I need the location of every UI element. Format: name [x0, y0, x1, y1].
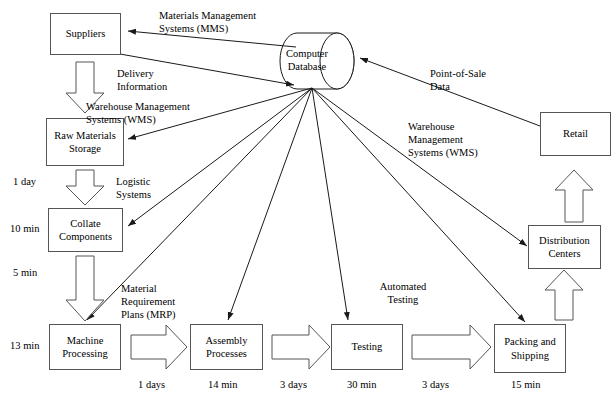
block-arrow-assembly-to-testing: [272, 325, 330, 369]
edge-assembly-processes: [228, 88, 312, 320]
block-arrow-distribution-to-retail: [555, 170, 593, 222]
time-label-machine: 13 min: [10, 340, 39, 353]
edge-wms-distribution-centers: [312, 88, 527, 246]
edge-label-automated-testing: Automated Testing: [366, 281, 440, 307]
block-arrow-raw-to-collate: [66, 170, 104, 205]
node-suppliers[interactable]: Suppliers: [50, 13, 121, 55]
node-distribution-centers[interactable]: Distribution Centers: [528, 225, 601, 269]
time-label-assembly-to-testing: 3 days: [280, 379, 307, 392]
node-machine-processing[interactable]: Machine Processing: [49, 324, 121, 370]
time-label-testing-to-packing: 3 days: [422, 379, 449, 392]
time-label-raw-to-collate: 1 day: [13, 176, 36, 189]
block-arrow-packing-to-distribution: [545, 270, 583, 320]
block-arrow-machine-to-assembly: [131, 325, 187, 369]
time-label-collate: 10 min: [10, 223, 39, 236]
block-arrow-collate-to-machine: [66, 256, 104, 321]
node-retail[interactable]: Retail: [540, 112, 611, 156]
time-label-packing: 15 min: [511, 379, 540, 392]
node-machine-processing-label: Machine Processing: [50, 334, 120, 360]
edge-label-wms-right: Warehouse Management Systems (WMS): [408, 121, 492, 159]
node-assembly-processes-label: Assembly Processes: [191, 334, 262, 360]
node-testing-label: Testing: [350, 340, 385, 353]
edge-label-point-of-sale: Point-of-Sale Data: [430, 68, 522, 94]
node-raw-materials-storage-label: Raw Materials Storage: [47, 129, 123, 155]
time-label-assembly: 14 min: [208, 379, 237, 392]
edge-label-logistic-systems: Logistic Systems: [116, 176, 186, 202]
edge-label-wms-left: Warehouse Management Systems (WMS): [86, 101, 222, 127]
node-collate-components[interactable]: Collate Components: [48, 208, 123, 252]
edge-label-delivery-information: Delivery Information: [117, 68, 207, 94]
time-label-testing: 30 min: [347, 379, 376, 392]
time-label-collate-to-machine: 5 min: [13, 267, 37, 280]
edge-label-mms: Materials Management Systems (MMS): [159, 10, 294, 36]
node-distribution-centers-label: Distribution Centers: [529, 234, 600, 260]
node-packing-and-shipping[interactable]: Packing and Shipping: [494, 324, 566, 373]
time-label-machine-to-assembly: 1 days: [138, 379, 165, 392]
node-collate-components-label: Collate Components: [49, 217, 122, 243]
edge-label-mrp: Material Requirement Plans (MRP): [121, 283, 211, 321]
diagram-canvas: Suppliers Raw Materials Storage Collate …: [0, 0, 616, 403]
edge-automated-testing: [312, 88, 348, 320]
node-suppliers-label: Suppliers: [64, 27, 108, 40]
node-computer-database-label: Computer Database: [283, 47, 331, 73]
node-packing-and-shipping-label: Packing and Shipping: [495, 335, 565, 361]
block-arrow-testing-to-packing: [412, 325, 491, 369]
node-testing[interactable]: Testing: [331, 324, 403, 370]
node-assembly-processes[interactable]: Assembly Processes: [190, 324, 263, 370]
node-retail-label: Retail: [561, 127, 590, 140]
